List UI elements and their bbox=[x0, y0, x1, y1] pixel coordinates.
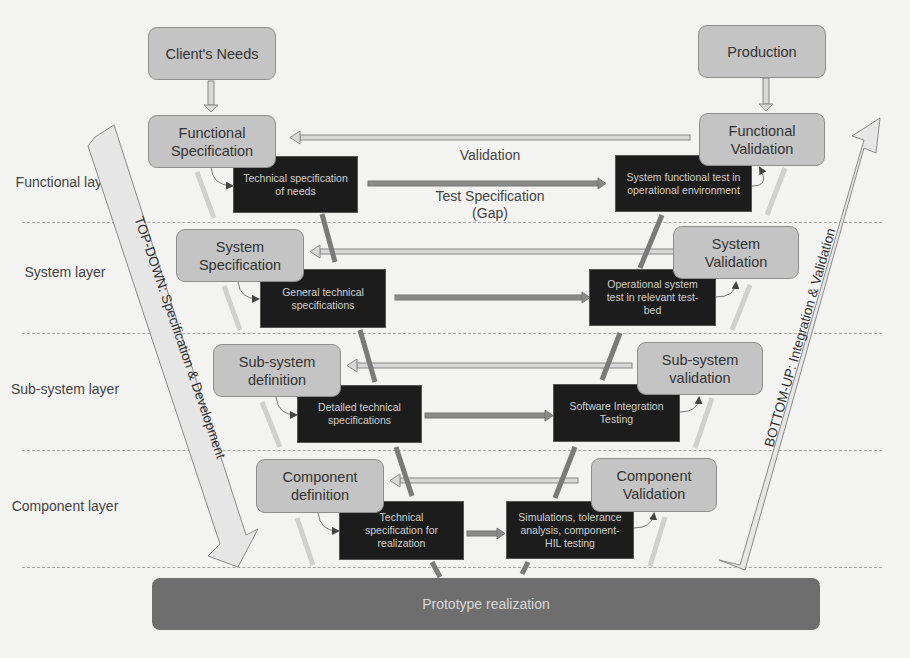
prototype-realization-bar: Prototype realization bbox=[152, 578, 820, 630]
component-validation-node: Component Validation bbox=[591, 458, 717, 512]
down-arrow bbox=[208, 81, 214, 105]
down-arrow bbox=[763, 78, 769, 104]
functional-validation-node: Functional Validation bbox=[699, 113, 825, 166]
test-specification-label: Test Specification bbox=[405, 188, 575, 205]
production-node: Production bbox=[698, 25, 826, 78]
client-needs-label: Client's Needs bbox=[165, 45, 258, 63]
test-specification-caption: Test Specification (Gap) bbox=[405, 188, 575, 222]
validation-caption: Validation bbox=[430, 147, 550, 163]
production-label: Production bbox=[727, 43, 796, 61]
test-spec-arrows bbox=[368, 178, 606, 539]
system-validation-node: System Validation bbox=[673, 226, 799, 279]
subsystem-validation-node: Sub-system validation bbox=[637, 342, 763, 395]
system-specification-node: System Specification bbox=[176, 229, 304, 282]
client-needs-node: Client's Needs bbox=[148, 27, 276, 80]
subsystem-definition-node: Sub-system definition bbox=[213, 344, 341, 397]
functional-specification-node: Functional Specification bbox=[148, 115, 276, 168]
component-definition-node: Component definition bbox=[256, 459, 384, 513]
gap-label: (Gap) bbox=[405, 205, 575, 222]
prototype-realization-label: Prototype realization bbox=[422, 596, 550, 612]
